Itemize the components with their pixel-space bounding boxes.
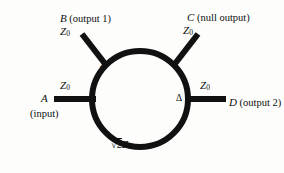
port-d-letter: D (229, 96, 237, 108)
ring-circle (92, 51, 188, 147)
port-a-description: (input) (30, 109, 59, 120)
figure-canvas: B (output 1) Z0 C (null output) Z0 Σ Z0 … (0, 0, 284, 173)
delta-node-label: Δ (176, 94, 182, 104)
port-c-stub (174, 34, 198, 65)
port-a-impedance: Z0 (60, 80, 70, 92)
port-d-label-group: D (output 2) (229, 93, 281, 109)
port-a-impedance-sub: 0 (66, 83, 70, 92)
port-d-impedance: Z0 (200, 80, 210, 92)
port-b-label-group: B (output 1) (60, 9, 111, 25)
sigma-node-label: Σ (100, 60, 106, 70)
port-b-letter: B (60, 12, 67, 24)
port-d-description-text: (output 2) (240, 97, 282, 108)
port-c-label-group: C (null output) (187, 8, 250, 24)
port-b-description-text: (output 1) (69, 13, 111, 24)
port-a-letter: A (41, 93, 48, 104)
ring-coupler-drawing (0, 0, 284, 173)
port-b-impedance-sub: 0 (66, 29, 70, 38)
ring-impedance-sub: 0 (128, 142, 132, 151)
port-c-description-text: (null output) (197, 12, 250, 23)
port-c-impedance-sub: 0 (189, 28, 193, 37)
port-b-impedance: Z0 (60, 26, 70, 38)
port-d-impedance-sub: 0 (206, 83, 210, 92)
port-c-impedance: Z0 (183, 25, 193, 37)
ring-impedance-label: √2Z0 (111, 139, 132, 151)
